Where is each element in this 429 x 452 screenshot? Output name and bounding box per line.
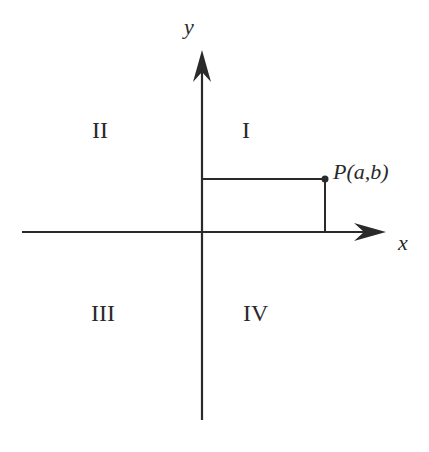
quadrant-i-label: I (242, 118, 250, 142)
axes-graphic (0, 0, 429, 452)
y-axis-label: y (184, 16, 194, 38)
coordinate-plane-diagram: y x II I III IV P(a,b) (0, 0, 429, 452)
quadrant-ii-label: II (92, 118, 108, 142)
quadrant-iii-label: III (91, 301, 115, 325)
point-p-dot (322, 176, 329, 183)
quadrant-iv-label: IV (243, 301, 268, 325)
point-p-label: P(a,b) (333, 161, 389, 183)
x-axis-label: x (398, 232, 408, 254)
